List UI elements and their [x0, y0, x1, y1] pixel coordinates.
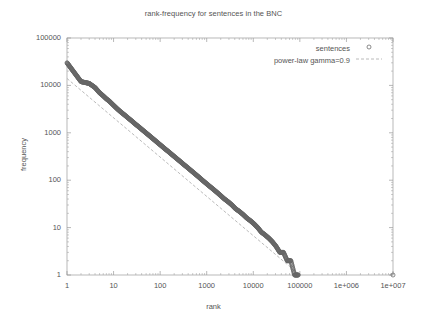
x-tick-label: 10	[89, 281, 139, 290]
x-tick-label: 1000	[182, 281, 232, 290]
legend-label-sentences: sentences	[240, 44, 350, 53]
plot-canvas	[0, 0, 427, 325]
power-law-fit-line	[67, 78, 300, 275]
y-tick-label: 10	[17, 223, 61, 232]
x-tick-label: 10000	[228, 281, 278, 290]
y-axis-label: frequency	[19, 125, 28, 185]
x-tick-label: 100000	[275, 281, 325, 290]
y-tick-label: 10000	[17, 80, 61, 89]
y-tick-label: 1	[17, 270, 61, 279]
x-axis-label: rank	[0, 302, 427, 311]
chart-figure: rank-frequency for sentences in the BNC …	[0, 0, 427, 325]
x-tick-label: 1e+006	[321, 281, 371, 290]
sentences-data-points	[65, 61, 395, 277]
x-tick-label: 100	[135, 281, 185, 290]
axes-frame	[67, 38, 393, 275]
legend-label-power-law: power-law gamma=0.9	[200, 56, 350, 65]
tick-marks	[67, 38, 393, 275]
legend-markers	[356, 45, 382, 59]
y-tick-label: 100000	[17, 33, 61, 42]
x-tick-label: 1	[42, 281, 92, 290]
x-tick-label: 1e+007	[368, 281, 418, 290]
